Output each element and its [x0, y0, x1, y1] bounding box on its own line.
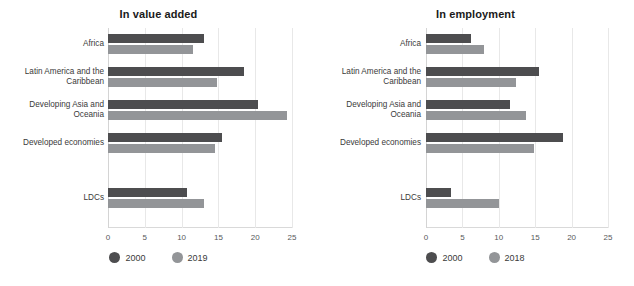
x-tick-label: 10	[177, 233, 186, 242]
bar	[426, 133, 563, 142]
legend-swatch-circle-icon	[172, 252, 183, 263]
category-label-line: Latin America and the	[0, 67, 104, 77]
x-tick-label: 0	[424, 233, 428, 242]
bar	[108, 188, 187, 197]
x-tick-label: 15	[531, 233, 540, 242]
category-labels-right: AfricaLatin America and theCaribbeanDeve…	[317, 28, 421, 228]
legend-label: 2019	[188, 253, 208, 263]
category-label: Developing Asia andOceania	[317, 100, 421, 120]
bar	[108, 199, 204, 208]
x-axis-line	[426, 227, 608, 228]
x-axis-line	[108, 227, 292, 228]
chart-panel-employment: In employment AfricaLatin America and th…	[317, 0, 634, 286]
panel-title: In employment	[317, 8, 634, 20]
gridline	[426, 28, 427, 228]
x-tick-label: 20	[251, 233, 260, 242]
chart-figure: In value added AfricaLatin America and t…	[0, 0, 634, 286]
category-label-line: Caribbean	[0, 77, 104, 87]
legend-item[interactable]: 2000	[109, 252, 145, 263]
gridline	[255, 28, 256, 228]
category-label: Developing Asia andOceania	[0, 100, 104, 120]
bar	[108, 67, 244, 76]
panel-title: In value added	[0, 8, 317, 20]
category-label-line: Developed economies	[317, 138, 421, 148]
x-tick-label: 0	[106, 233, 110, 242]
bar	[108, 111, 287, 120]
legend-label: 2000	[442, 253, 462, 263]
legend-swatch-circle-icon	[426, 252, 437, 263]
legend-item[interactable]: 2019	[172, 252, 208, 263]
legend-item[interactable]: 2018	[489, 252, 525, 263]
category-label: Developed economies	[317, 138, 421, 148]
x-tick-label: 5	[460, 233, 464, 242]
bar	[426, 199, 499, 208]
bar	[426, 144, 534, 153]
gridline	[608, 28, 609, 228]
bar	[108, 133, 222, 142]
gridline	[292, 28, 293, 228]
bar	[426, 188, 451, 197]
gridline	[182, 28, 183, 228]
category-label-line: Latin America and the	[317, 67, 421, 77]
plot-area-left	[108, 28, 292, 228]
category-label: Africa	[317, 39, 421, 49]
bar	[426, 100, 510, 109]
x-tick-label: 5	[143, 233, 147, 242]
gridline	[145, 28, 146, 228]
bar	[426, 67, 539, 76]
legend-label: 2000	[125, 253, 145, 263]
gridline	[218, 28, 219, 228]
category-labels-left: AfricaLatin America and theCaribbeanDeve…	[0, 28, 104, 228]
category-label-line: Developing Asia and	[317, 100, 421, 110]
category-label-line: Developing Asia and	[0, 100, 104, 110]
bar	[108, 45, 193, 54]
category-label-line: Africa	[0, 39, 104, 49]
x-tick-label: 20	[567, 233, 576, 242]
legend-item[interactable]: 2000	[426, 252, 462, 263]
bar	[426, 78, 516, 87]
bar	[426, 45, 484, 54]
category-label-line: Oceania	[317, 110, 421, 120]
bar	[426, 111, 526, 120]
x-tick-label: 10	[494, 233, 503, 242]
category-label: LDCs	[0, 193, 104, 203]
category-label-line: Africa	[317, 39, 421, 49]
gridline	[462, 28, 463, 228]
category-label-line: Caribbean	[317, 77, 421, 87]
bar	[108, 78, 217, 87]
category-label: Latin America and theCaribbean	[317, 67, 421, 87]
category-label: Africa	[0, 39, 104, 49]
legend-swatch-circle-icon	[109, 252, 120, 263]
category-label-line: LDCs	[317, 193, 421, 203]
legend-left: 20002019	[0, 252, 317, 263]
gridline	[108, 28, 109, 228]
chart-panel-value-added: In value added AfricaLatin America and t…	[0, 0, 317, 286]
gridline	[572, 28, 573, 228]
category-label-line: Developed economies	[0, 138, 104, 148]
category-label: LDCs	[317, 193, 421, 203]
plot-area-right	[426, 28, 608, 228]
bar	[426, 34, 471, 43]
legend-swatch-circle-icon	[489, 252, 500, 263]
gridline	[499, 28, 500, 228]
x-tick-label: 15	[214, 233, 223, 242]
category-label-line: LDCs	[0, 193, 104, 203]
x-tick-label: 25	[288, 233, 297, 242]
category-label: Developed economies	[0, 138, 104, 148]
category-label-line: Oceania	[0, 110, 104, 120]
gridline	[535, 28, 536, 228]
bar	[108, 34, 204, 43]
bar	[108, 100, 258, 109]
bar	[108, 144, 215, 153]
legend-right: 20002018	[317, 252, 634, 263]
category-label: Latin America and theCaribbean	[0, 67, 104, 87]
x-tick-label: 25	[604, 233, 613, 242]
legend-label: 2018	[505, 253, 525, 263]
